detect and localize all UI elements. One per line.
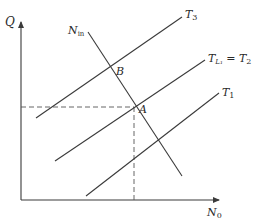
x-axis-label: N0: [206, 206, 222, 220]
label-t3: T3: [185, 8, 197, 22]
label-n-in: Nin: [67, 24, 85, 38]
line-t1: [86, 93, 219, 196]
label-t1: T1: [222, 86, 234, 100]
diagram-canvas: Q N0 T3 TL₁ = T2 T1 Nin B A: [0, 0, 253, 220]
point-a-label: A: [138, 103, 147, 116]
y-axis-label: Q: [5, 15, 15, 29]
line-tl1-t2: [55, 60, 205, 161]
line-t3: [36, 17, 182, 118]
label-tl1-t2: TL₁ = T2: [208, 52, 251, 66]
line-n-in: [88, 32, 182, 176]
point-b-label: B: [115, 65, 124, 78]
